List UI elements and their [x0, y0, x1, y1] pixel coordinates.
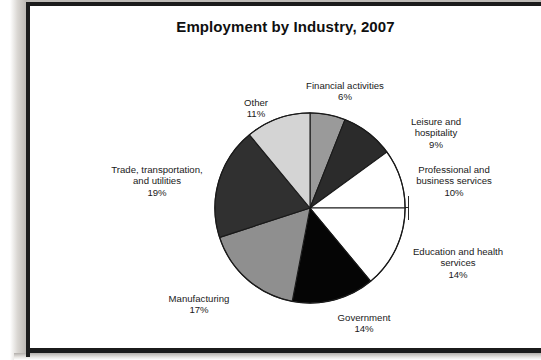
- pie-label-education-health-services: Education and health services 14%: [387, 234, 529, 292]
- page-border-top: [26, 2, 541, 6]
- pie-label-other-value: 11%: [219, 108, 293, 120]
- pie-label-manufacturing-value: 17%: [144, 304, 254, 316]
- pie-label-trade-transportation-utilities: Trade, transportation, and utilities 19%: [88, 152, 226, 210]
- pie-slice-group: [215, 113, 405, 303]
- pie-label-trade-transportation-utilities-value: 19%: [88, 187, 226, 199]
- pie-label-education-health-services-value: 14%: [387, 269, 529, 281]
- pie-label-professional-business-services: Professional and business services 10%: [390, 152, 518, 210]
- pie-label-professional-business-services-name: Professional and business services: [416, 164, 492, 187]
- pie-label-leisure-hospitality-value: 9%: [381, 139, 491, 151]
- pie-chart: [213, 111, 407, 305]
- pie-label-government: Government 14%: [317, 300, 411, 346]
- pie-label-trade-transportation-utilities-name: Trade, transportation, and utilities: [111, 164, 202, 187]
- pie-label-professional-business-services-value: 10%: [390, 187, 518, 199]
- chart-title: Employment by Industry, 2007: [30, 18, 541, 35]
- pie-chart-svg: [213, 111, 407, 305]
- pie-label-government-name: Government: [338, 312, 391, 323]
- pie-label-manufacturing: Manufacturing 17%: [144, 281, 254, 327]
- page-border-bottom: [26, 348, 541, 353]
- pie-label-other: Other 11%: [219, 85, 293, 131]
- pie-label-education-health-services-name: Education and health services: [413, 246, 503, 269]
- page-border-left: [26, 2, 30, 357]
- pie-label-financial-activities-name: Financial activities: [306, 80, 384, 91]
- pie-label-financial-activities-value: 6%: [283, 91, 407, 103]
- pie-label-leisure-hospitality-name: Leisure and hospitality: [411, 116, 461, 139]
- pie-label-other-name: Other: [244, 97, 268, 108]
- scanned-chart-page: Employment by Industry, 2007 Financial a…: [0, 0, 541, 360]
- page-scan-shadow-left: [10, 0, 27, 360]
- page-scan-shadow-bottom: [14, 353, 541, 360]
- pie-label-manufacturing-name: Manufacturing: [169, 293, 230, 304]
- pie-label-government-value: 14%: [317, 323, 411, 335]
